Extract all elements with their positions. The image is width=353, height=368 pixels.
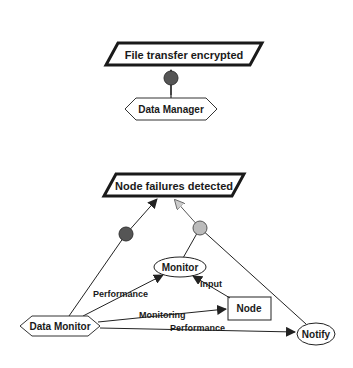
agent-data-manager[interactable]: Data Manager [125, 98, 217, 120]
goal-label: File transfer encrypted [125, 49, 244, 61]
edge-label-monitoring: Monitoring [139, 310, 186, 320]
goal-file-transfer-encrypted[interactable]: File transfer encrypted [106, 43, 262, 65]
dark-circle-icon [164, 71, 178, 85]
node-node[interactable]: Node [228, 297, 271, 320]
agent-label: Data Manager [138, 104, 204, 115]
edge-label-performance: Performance [170, 323, 225, 333]
edge-monitor-to-dark-circle [69, 234, 126, 316]
svg-text:Notify: Notify [302, 329, 331, 340]
dark-circle-icon [119, 227, 133, 241]
goal-label: Node failures detected [115, 180, 233, 192]
node-monitor[interactable]: Monitor [154, 257, 206, 277]
edge-label-performance: Performance [93, 289, 148, 299]
agent-data-monitor[interactable]: Data Monitor [20, 316, 100, 336]
svg-text:Monitor: Monitor [162, 262, 199, 273]
svg-text:Node: Node [237, 303, 262, 314]
goal-node-failures-detected[interactable]: Node failures detected [104, 174, 244, 196]
edge-label-input: Input [200, 279, 222, 289]
agent-label: Data Monitor [29, 321, 90, 332]
goal-diagram: File transfer encrypted Data Manager Nod… [0, 0, 353, 368]
light-circle-icon [193, 221, 207, 235]
node-notify[interactable]: Notify [297, 323, 335, 345]
